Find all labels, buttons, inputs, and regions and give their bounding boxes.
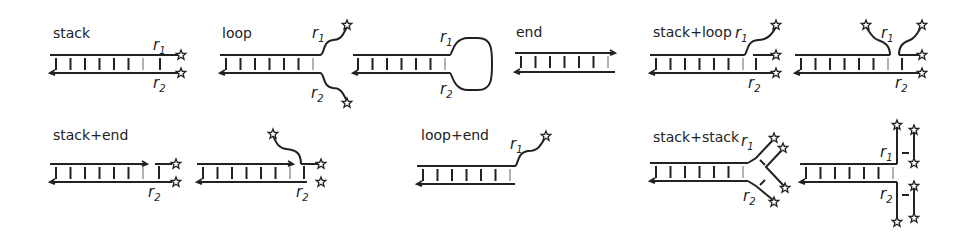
star-icon (171, 177, 181, 186)
star-icon (176, 68, 186, 77)
label-r1: r1 (153, 36, 166, 56)
star-icon (342, 98, 352, 107)
star-icon (909, 181, 919, 190)
svg-text:r2: r2 (748, 74, 761, 94)
panel-stack-end-b: r2 (197, 129, 326, 203)
panel-stack-end-a: stack+end r2 (50, 127, 181, 203)
panel-label-loop-end: loop+end (421, 127, 489, 143)
svg-text:r1: r1 (881, 24, 894, 44)
panel-stack: stack r1 r2 (50, 25, 186, 94)
label-r2: r2 (153, 74, 166, 94)
star-icon (176, 50, 186, 59)
panel-stack-loop-b: r1 r2 (795, 20, 927, 94)
star-icon (861, 20, 871, 29)
star-icon (917, 50, 927, 59)
svg-text:r2: r2 (743, 187, 756, 207)
star-icon (171, 159, 181, 168)
star-icon (909, 213, 919, 222)
star-icon (771, 68, 781, 77)
svg-text:r1: r1 (735, 24, 748, 44)
star-icon (917, 68, 927, 77)
panel-label-end: end (516, 24, 542, 40)
diagram-canvas: stack r1 r2 loop r1 r2 r1 r2 end (0, 0, 971, 232)
svg-text:r1: r1 (510, 135, 523, 155)
svg-text:r2: r2 (880, 185, 893, 205)
star-icon (342, 20, 352, 29)
star-icon (892, 217, 902, 226)
svg-text:r2: r2 (296, 183, 309, 203)
star-icon (917, 20, 927, 29)
star-icon (771, 20, 781, 29)
panel-label-stack: stack (53, 25, 91, 41)
star-icon (268, 129, 278, 138)
star-icon (909, 125, 919, 134)
panel-stack-stack-a: stack+stack r1 r2 (650, 129, 790, 207)
panel-label-stack-stack: stack+stack (653, 129, 740, 145)
star-icon (316, 177, 326, 186)
base-pair-ticks (56, 58, 143, 70)
star-icon (769, 133, 779, 142)
svg-text:r1: r1 (440, 28, 453, 48)
svg-text:r1: r1 (312, 24, 325, 44)
panel-stack-stack-b: r1 r2 (800, 120, 919, 226)
panel-label-stack-loop: stack+loop (653, 24, 732, 40)
star-icon (909, 158, 919, 167)
panel-loop-end: loop+end r1 (417, 127, 551, 186)
star-icon (771, 50, 781, 59)
star-icon (892, 120, 902, 129)
star-icon (316, 159, 326, 168)
panel-label-stack-end: stack+end (53, 127, 128, 143)
panel-stack-loop-a: stack+loop r1 r2 (650, 20, 781, 94)
panel-loop-open: loop r1 r2 (220, 20, 352, 107)
panel-label-loop: loop (222, 25, 252, 41)
svg-text:r1: r1 (741, 132, 754, 152)
svg-text:r2: r2 (895, 74, 908, 94)
svg-text:r2: r2 (148, 183, 161, 203)
svg-text:r2: r2 (440, 80, 453, 100)
star-icon (778, 143, 788, 152)
star-icon (541, 131, 551, 140)
panel-loop-closed: r1 r2 (353, 28, 492, 100)
panel-end: end (515, 24, 615, 74)
svg-text:r2: r2 (311, 84, 324, 104)
svg-text:r1: r1 (880, 143, 893, 163)
